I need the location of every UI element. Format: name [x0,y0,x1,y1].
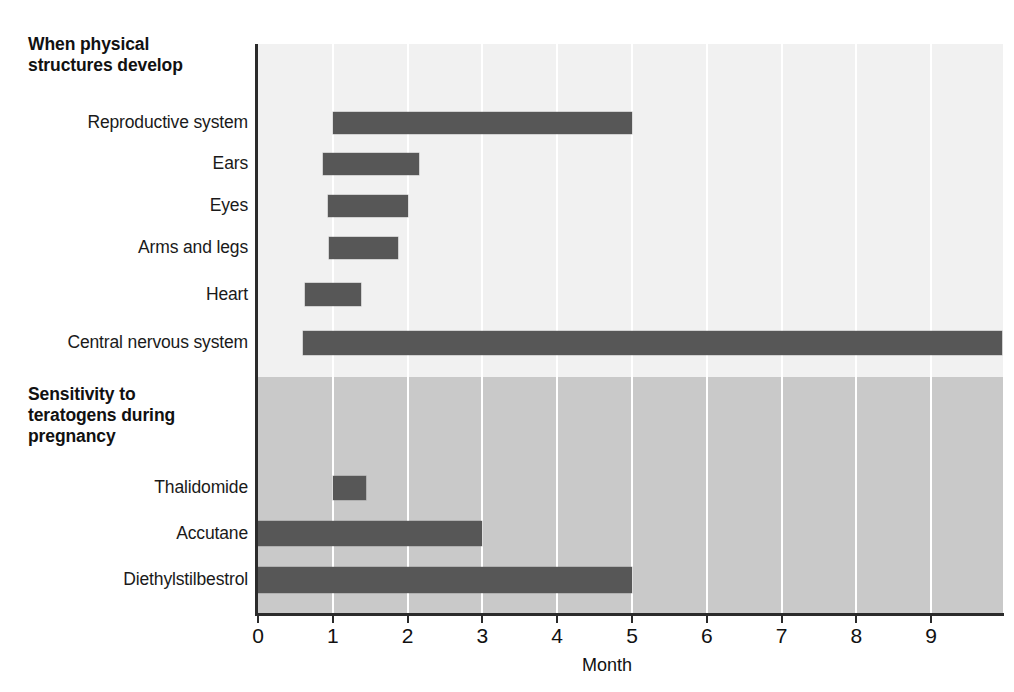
x-tick-label-2: 2 [388,624,428,648]
row-label-heart: Heart [206,284,248,304]
x-tick-0 [257,614,259,623]
x-tick-label-9: 9 [911,624,951,648]
x-tick-3 [481,614,483,623]
row-label-thalidomide: Thalidomide [154,477,248,497]
row-label-ears: Ears [213,153,248,173]
row-label-eyes: Eyes [210,195,248,215]
x-tick-6 [706,614,708,623]
y-axis-line [255,44,258,616]
row-label-central-nervous-system: Central nervous system [67,332,248,352]
gridline-month-8 [855,44,857,614]
x-axis-line [255,613,1004,616]
bar-arms-and-legs [329,237,398,259]
section-heading-teratogen-sensitivity: Sensitivity to teratogens during pregnan… [28,384,243,447]
x-tick-8 [855,614,857,623]
x-axis-title-text: Month [582,655,632,676]
x-tick-label-3: 3 [462,624,502,648]
x-tick-label-4: 4 [537,624,577,648]
x-tick-5 [631,614,633,623]
bar-central-nervous-system [303,331,1002,355]
bar-ears [323,153,419,175]
teratogen-timeline-chart: When physical structures develop Sensiti… [0,0,1014,692]
x-tick-2 [407,614,409,623]
bar-heart [305,283,361,306]
bar-accutane [258,521,482,546]
bar-diethylstilbestrol [258,567,632,593]
x-tick-9 [930,614,932,623]
x-tick-label-6: 6 [687,624,727,648]
x-tick-label-1: 1 [313,624,353,648]
x-tick-4 [556,614,558,623]
row-label-accutane: Accutane [176,523,248,543]
bar-reproductive-system [333,112,632,134]
x-tick-label-0: 0 [238,624,278,648]
x-tick-7 [781,614,783,623]
x-axis-title: Month [0,655,1014,676]
bar-thalidomide [333,476,367,500]
gridline-month-7 [781,44,783,614]
gridline-month-9 [930,44,932,614]
bar-eyes [328,195,407,217]
row-label-arms-and-legs: Arms and legs [138,237,248,257]
x-tick-label-5: 5 [612,624,652,648]
row-label-reproductive-system: Reproductive system [87,112,248,132]
row-label-diethylstilbestrol: Diethylstilbestrol [123,569,248,589]
x-tick-1 [332,614,334,623]
gridline-month-6 [706,44,708,614]
x-tick-label-8: 8 [836,624,876,648]
plot-area [257,44,1003,614]
section-heading-physical-structures: When physical structures develop [28,34,243,76]
x-tick-label-7: 7 [762,624,802,648]
